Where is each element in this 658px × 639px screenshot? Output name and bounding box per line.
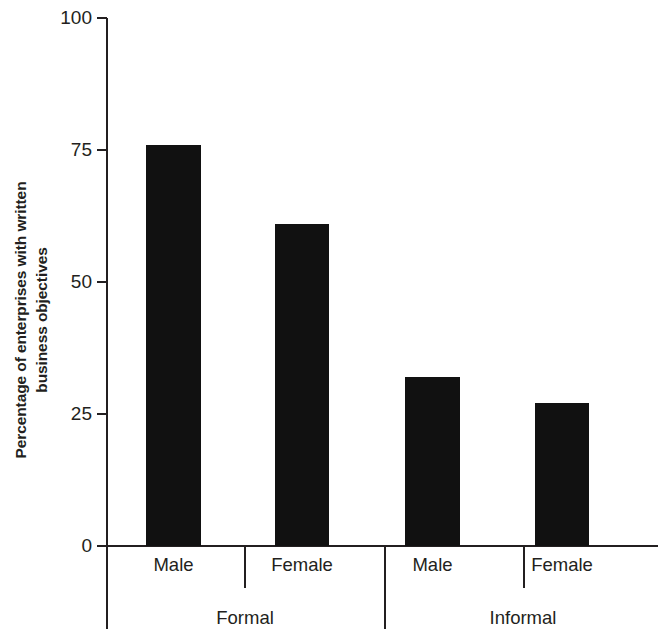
y-axis-title-line-1: Percentage of enterprises with written — [10, 181, 31, 458]
x-axis-label-formal-female: Female — [242, 555, 362, 575]
bar-informal-male — [405, 377, 460, 546]
y-axis-title-line-2: business objectives — [31, 181, 52, 458]
x-axis-label-informal-female: Female — [502, 555, 622, 575]
y-axis-tick — [97, 17, 107, 19]
bar-informal-female — [535, 403, 589, 546]
bar-formal-female — [275, 224, 329, 546]
y-axis-tick-label: 25 — [54, 404, 92, 423]
bar-chart-figure: Percentage of enterprises with written b… — [0, 0, 658, 639]
y-axis-tick-label: 100 — [54, 8, 92, 27]
y-axis-tick-label: 75 — [54, 140, 92, 159]
x-axis-group-label-informal: Informal — [448, 608, 598, 628]
y-axis-tick-label: 50 — [54, 272, 92, 291]
y-axis-tick — [97, 149, 107, 151]
x-axis-tick-left-edge — [106, 546, 108, 629]
x-axis-label-formal-male: Male — [114, 555, 234, 575]
x-axis-group-label-formal: Formal — [170, 608, 320, 628]
bar-formal-male — [146, 145, 201, 546]
y-axis-tick — [97, 281, 107, 283]
y-axis-tick — [97, 413, 107, 415]
x-axis-label-informal-male: Male — [373, 555, 493, 575]
y-axis-tick-label: 0 — [54, 536, 92, 555]
y-axis-title: Percentage of enterprises with written b… — [0, 0, 62, 639]
